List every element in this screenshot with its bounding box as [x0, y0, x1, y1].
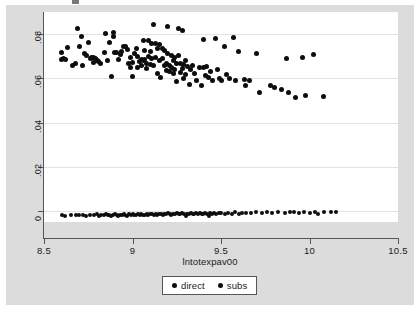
y-axis-tick-label: 0 — [33, 216, 43, 221]
plot-area — [44, 12, 398, 222]
data-point-direct — [151, 22, 156, 27]
data-point-direct — [77, 44, 82, 49]
x-axis-title: lntotexpav00 — [0, 256, 420, 267]
legend-marker-icon — [218, 283, 223, 288]
data-point-direct — [243, 83, 248, 88]
y-axis-tick-label: .06 — [33, 75, 43, 88]
data-point-direct — [130, 60, 135, 65]
data-point-direct — [213, 36, 218, 41]
data-point-direct — [105, 58, 110, 63]
data-point-direct — [151, 63, 156, 68]
legend-entry-subs[interactable]: subs — [218, 280, 247, 291]
data-point-subs — [254, 210, 258, 214]
legend-marker-icon — [172, 283, 177, 288]
legend-label: direct — [181, 280, 205, 291]
data-point-direct — [233, 78, 238, 83]
data-point-direct — [231, 35, 236, 40]
legend-entry-direct[interactable]: direct — [172, 280, 205, 291]
data-point-direct — [192, 71, 197, 76]
gridline — [44, 167, 398, 168]
y-axis-tick-label: .02 — [33, 164, 43, 177]
data-point-subs — [308, 211, 312, 215]
data-point-subs — [249, 211, 253, 215]
data-point-direct — [139, 63, 144, 68]
data-point-direct — [257, 90, 262, 95]
scatter-plot-screenshot: 0.02.04.06.08 8.599.51010.5 lntotexpav00… — [0, 0, 420, 313]
data-point-direct — [103, 31, 108, 36]
data-point-direct — [80, 63, 85, 68]
data-point-direct — [73, 61, 78, 66]
data-point-direct — [194, 78, 199, 83]
data-point-subs — [322, 210, 326, 214]
data-point-direct — [109, 74, 114, 79]
data-point-subs — [334, 210, 338, 214]
gridline — [44, 123, 398, 124]
data-point-direct — [63, 57, 68, 62]
x-axis-tick — [398, 239, 399, 244]
data-point-direct — [144, 66, 149, 71]
data-point-subs — [329, 210, 333, 214]
data-point-direct — [65, 45, 70, 50]
data-point-subs — [244, 211, 248, 215]
data-point-direct — [208, 69, 213, 74]
data-point-direct — [119, 49, 124, 54]
data-point-direct — [98, 61, 103, 66]
data-point-direct — [125, 47, 130, 52]
data-point-subs — [283, 211, 287, 215]
data-point-direct — [128, 65, 133, 70]
cropped-title-artifact — [72, 0, 79, 4]
data-point-direct — [311, 52, 316, 57]
data-point-direct — [116, 57, 121, 62]
data-point-direct — [86, 40, 91, 45]
data-point-direct — [180, 28, 185, 33]
data-point-direct — [303, 93, 308, 98]
data-point-direct — [242, 77, 247, 82]
data-point-direct — [79, 34, 84, 39]
data-point-direct — [300, 55, 305, 60]
data-point-subs — [316, 212, 320, 216]
data-point-direct — [247, 78, 252, 83]
data-point-direct — [59, 50, 64, 55]
data-point-direct — [107, 40, 112, 45]
data-point-direct — [215, 67, 220, 72]
data-point-direct — [201, 37, 206, 42]
x-axis-tick — [44, 239, 45, 244]
y-axis-tick-label: .04 — [33, 119, 43, 132]
data-point-direct — [236, 49, 241, 54]
data-point-direct — [160, 56, 165, 61]
x-axis-tick-label: 10.5 — [378, 245, 418, 256]
data-point-direct — [222, 44, 227, 49]
data-point-subs — [276, 210, 280, 214]
x-axis-tick-label: 8.5 — [24, 245, 64, 256]
y-axis-tick — [38, 211, 43, 212]
data-point-direct — [183, 72, 188, 77]
data-point-direct — [134, 46, 139, 51]
data-point-direct — [190, 63, 195, 68]
x-axis-tick-label: 10 — [290, 245, 330, 256]
y-axis-tick-label: .08 — [33, 31, 43, 44]
data-point-direct — [148, 49, 153, 54]
data-point-direct — [142, 48, 147, 53]
data-point-subs — [292, 210, 296, 214]
data-point-direct — [210, 78, 215, 83]
data-point-subs — [63, 214, 67, 218]
data-point-direct — [130, 74, 135, 79]
data-point-subs — [302, 210, 306, 214]
data-point-direct — [111, 34, 116, 39]
data-point-direct — [286, 90, 291, 95]
x-axis-tick — [133, 239, 134, 244]
data-point-direct — [183, 58, 188, 63]
data-point-direct — [75, 26, 80, 31]
data-point-direct — [199, 83, 204, 88]
data-point-direct — [284, 56, 289, 61]
legend-label: subs — [227, 280, 247, 291]
data-point-direct — [219, 78, 224, 83]
data-point-subs — [265, 210, 269, 214]
data-point-direct — [165, 24, 170, 29]
data-point-direct — [254, 51, 259, 56]
data-point-direct — [293, 95, 298, 100]
data-point-direct — [176, 53, 181, 58]
data-point-subs — [69, 213, 73, 217]
data-point-subs — [260, 211, 264, 215]
data-point-direct — [279, 87, 284, 92]
